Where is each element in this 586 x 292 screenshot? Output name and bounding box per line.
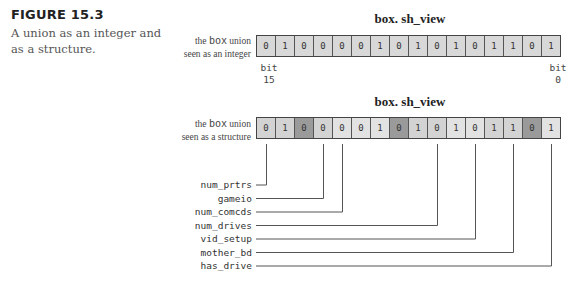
field-leader-lines [0,0,586,292]
field-label-vid-setup: vid_setup [160,233,252,245]
leader-line [256,144,267,185]
field-label-num-prtrs: num_prtrs [160,179,252,191]
field-label-num-comcds: num_comcds [160,206,252,218]
leader-line [256,144,343,212]
leader-line [256,144,438,226]
field-label-has-drive: has_drive [160,260,252,272]
leader-line [256,144,476,239]
field-label-num-drives: num_drives [160,220,252,232]
field-label-gameio: gameio [160,193,252,205]
field-label-mother-bd: mother_bd [160,247,252,259]
leader-line [256,144,552,266]
